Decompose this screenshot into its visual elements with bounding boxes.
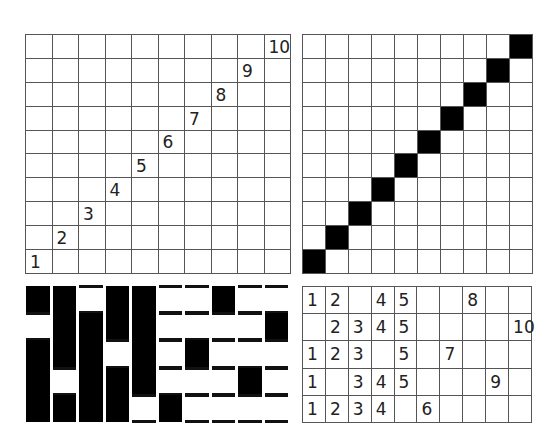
grid-cell — [372, 131, 395, 155]
table-cell: 3 — [349, 396, 372, 423]
grid-cell — [303, 83, 326, 107]
filled-cell — [441, 107, 464, 131]
grid-cell — [79, 178, 106, 202]
weft-thread-line — [212, 420, 236, 423]
warp-thread-block — [238, 368, 262, 395]
grid-cell: 5 — [132, 154, 159, 178]
grid-cell — [265, 250, 292, 274]
grid-cell — [159, 107, 186, 131]
grid-cell — [265, 59, 292, 83]
grid-cell — [79, 35, 106, 59]
grid-cell — [372, 154, 395, 178]
grid-cell — [53, 35, 80, 59]
grid-cell — [395, 35, 418, 59]
grid-cell — [487, 131, 510, 155]
grid-cell — [418, 107, 441, 131]
table-cell: 1 — [303, 369, 326, 396]
warp-thread-block — [53, 286, 77, 368]
table-number: 1 — [307, 346, 318, 363]
grid-cell — [79, 131, 106, 155]
grid-cell — [106, 107, 133, 131]
table-number: 6 — [421, 400, 432, 417]
grid-cell — [212, 250, 239, 274]
table-cell: 4 — [372, 396, 395, 423]
grid-cell — [510, 83, 533, 107]
grid-cell — [106, 202, 133, 226]
table-cell — [395, 396, 418, 423]
grid-cell — [212, 154, 239, 178]
table-number: 1 — [307, 400, 318, 417]
diagonal-number: 8 — [216, 87, 227, 104]
grid-cell — [395, 131, 418, 155]
diagonal-number: 9 — [242, 63, 253, 80]
grid-cell — [265, 131, 292, 155]
grid-cell — [212, 226, 239, 250]
diagonal-number: 3 — [83, 206, 94, 223]
grid-cell — [132, 35, 159, 59]
grid-cell — [53, 131, 80, 155]
grid-cell — [326, 250, 349, 274]
grid-cell — [303, 202, 326, 226]
grid-cell — [132, 178, 159, 202]
grid-cell — [265, 83, 292, 107]
grid-cell: 8 — [212, 83, 239, 107]
filled-diagonal-grid — [302, 34, 533, 274]
weft-thread-line — [238, 285, 262, 288]
grid-cell — [238, 83, 265, 107]
grid-cell — [159, 226, 186, 250]
grid-cell: 4 — [106, 178, 133, 202]
table-cell — [509, 341, 532, 368]
grid-cell — [185, 35, 212, 59]
table-number: 1 — [307, 292, 318, 309]
grid-cell — [212, 35, 239, 59]
grid-cell — [185, 226, 212, 250]
table-cell — [486, 314, 509, 341]
grid-cell — [326, 178, 349, 202]
table-cell — [440, 287, 463, 314]
grid-cell — [395, 226, 418, 250]
grid-cell — [265, 107, 292, 131]
table-cell — [509, 287, 532, 314]
number-table-grid: 12458234510123571345912346 — [302, 286, 532, 423]
grid-cell — [303, 59, 326, 83]
grid-cell — [132, 226, 159, 250]
grid-cell — [159, 154, 186, 178]
table-number: 4 — [376, 373, 387, 390]
table-cell: 5 — [395, 314, 418, 341]
grid-cell — [349, 131, 372, 155]
weft-thread-line — [265, 285, 289, 288]
table-number: 3 — [353, 346, 364, 363]
table-cell: 8 — [463, 287, 486, 314]
grid-cell — [372, 59, 395, 83]
grid-cell — [349, 107, 372, 131]
grid-cell — [510, 131, 533, 155]
table-cell — [509, 369, 532, 396]
grid-cell — [418, 154, 441, 178]
grid-cell — [418, 250, 441, 274]
grid-cell — [26, 178, 53, 202]
grid-cell — [106, 226, 133, 250]
weft-thread-line — [106, 339, 130, 342]
grid-cell — [53, 250, 80, 274]
grid-cell — [326, 154, 349, 178]
weft-thread-line — [132, 394, 156, 397]
table-cell — [463, 369, 486, 396]
grid-cell — [487, 83, 510, 107]
table-number: 5 — [399, 292, 410, 309]
filled-cell — [418, 131, 441, 155]
warp-thread-block — [185, 340, 209, 367]
table-number: 3 — [353, 319, 364, 336]
grid-cell — [212, 202, 239, 226]
table-cell — [417, 314, 440, 341]
grid-cell — [238, 154, 265, 178]
grid-cell — [79, 226, 106, 250]
grid-cell — [132, 250, 159, 274]
grid-cell — [238, 178, 265, 202]
grid-cell — [79, 59, 106, 83]
table-number: 3 — [353, 400, 364, 417]
grid-cell — [372, 226, 395, 250]
grid-cell — [265, 178, 292, 202]
table-number: 2 — [330, 400, 341, 417]
grid-cell — [53, 178, 80, 202]
grid-cell — [395, 107, 418, 131]
